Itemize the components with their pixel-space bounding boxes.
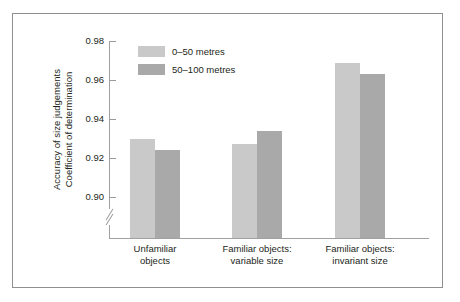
y-axis-line-lower bbox=[109, 224, 110, 239]
y-tick-0 bbox=[110, 41, 116, 42]
bar-group-0-series-0 bbox=[130, 139, 155, 238]
bar-group-2-series-1 bbox=[360, 74, 385, 238]
y-axis-line-upper bbox=[109, 41, 110, 209]
x-axis-label-2-line-2: invariant size bbox=[300, 255, 420, 267]
legend-swatch-icon-1 bbox=[138, 64, 165, 75]
legend-label-0: 0–50 metres bbox=[172, 46, 225, 57]
legend-item-1: 50–100 metres bbox=[138, 63, 235, 76]
legend: 0–50 metres 50–100 metres bbox=[138, 45, 235, 81]
axis-break-icon bbox=[103, 209, 117, 225]
plot-area: 0.98 0.96 0.94 0.92 0.90 Accuracy of siz… bbox=[0, 0, 460, 302]
y-axis-title-line-2: Coefficient of determination bbox=[62, 35, 74, 225]
bar-group-1-series-0 bbox=[232, 144, 257, 238]
legend-item-0: 0–50 metres bbox=[138, 45, 235, 58]
y-tick-1 bbox=[110, 80, 116, 81]
y-tick-3 bbox=[110, 158, 116, 159]
bar-group-1-series-1 bbox=[257, 131, 282, 238]
legend-swatch-icon-0 bbox=[138, 46, 165, 57]
figure: 0.98 0.96 0.94 0.92 0.90 Accuracy of siz… bbox=[0, 0, 460, 302]
y-axis-title: Accuracy of size judgements Coefficient … bbox=[51, 35, 74, 225]
x-axis-label-2: Familiar objects: invariant size bbox=[300, 243, 420, 267]
bar-group-0-series-1 bbox=[155, 150, 180, 238]
x-axis-label-1-line-2: variable size bbox=[197, 255, 317, 267]
y-axis-title-line-1: Accuracy of size judgements bbox=[51, 35, 63, 225]
bar-group-2-series-0 bbox=[335, 63, 360, 239]
x-axis-label-2-line-1: Familiar objects: bbox=[300, 243, 420, 255]
legend-label-1: 50–100 metres bbox=[172, 64, 235, 75]
y-tick-4 bbox=[110, 197, 116, 198]
x-axis-label-1: Familiar objects: variable size bbox=[197, 243, 317, 267]
x-axis-label-1-line-1: Familiar objects: bbox=[197, 243, 317, 255]
y-tick-2 bbox=[110, 119, 116, 120]
x-axis-line bbox=[109, 238, 429, 239]
